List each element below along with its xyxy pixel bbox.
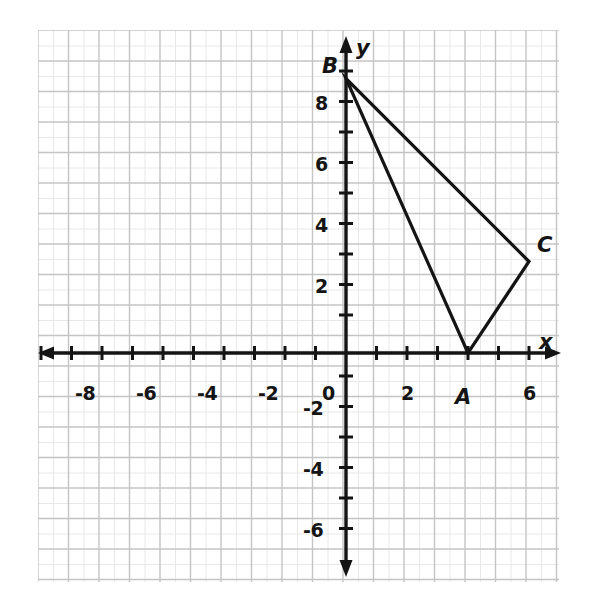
x-tick-label-neg4: -4 xyxy=(197,382,218,404)
y-tick-label-neg2: -2 xyxy=(303,397,324,419)
y-tick-label-2: 2 xyxy=(315,275,328,297)
y-axis-label: y xyxy=(356,36,370,60)
point-label-b: B xyxy=(322,54,338,78)
x-tick-label-neg2: -2 xyxy=(258,382,279,404)
x-tick-label-6: 6 xyxy=(523,382,536,404)
y-tick-label-8: 8 xyxy=(315,92,328,114)
coordinate-plane-svg xyxy=(0,0,589,612)
coordinate-plane-figure: -8 -6 -4 -2 0 2 6 8 6 4 2 -2 -4 -6 x y A… xyxy=(0,0,589,612)
x-tick-label-neg6: -6 xyxy=(136,382,157,404)
x-axis-label: x xyxy=(539,330,553,354)
x-tick-label-2: 2 xyxy=(401,382,414,404)
x-tick-label-neg8: -8 xyxy=(75,382,96,404)
y-tick-label-neg6: -6 xyxy=(303,519,324,541)
y-tick-label-neg4: -4 xyxy=(303,458,324,480)
y-tick-label-4: 4 xyxy=(315,214,328,236)
point-label-c: C xyxy=(537,233,552,257)
point-label-a: A xyxy=(455,385,471,409)
y-tick-label-6: 6 xyxy=(315,153,328,175)
origin-label: 0 xyxy=(322,382,335,404)
